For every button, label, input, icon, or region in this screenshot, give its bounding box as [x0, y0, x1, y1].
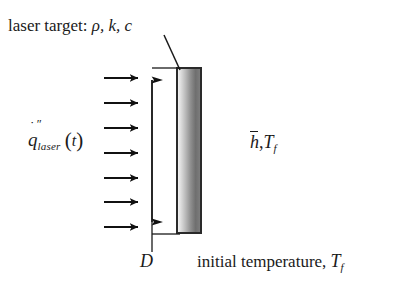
flux-paren-close: ) [76, 128, 83, 152]
laser-flux-label: ˙ ″ q laser (t) [28, 130, 83, 152]
diagram-title: laser target: ρ, k, c [8, 16, 132, 36]
flux-dot-accent: ˙ [30, 119, 34, 132]
initial-temperature-symbol: T [331, 251, 341, 271]
flux-paren-open: ( [65, 128, 72, 152]
laser-target-diagram: laser target: ρ, k, c ˙ ″ q laser (t) h,… [0, 0, 405, 297]
flux-double-prime: ″ [36, 118, 41, 130]
initial-temperature-text: initial temperature, [197, 252, 326, 271]
convection-coefficient-symbol: h [250, 133, 259, 151]
target-slab [176, 67, 202, 234]
initial-temperature-subscript: f [341, 261, 344, 273]
laser-flux-arrows [104, 78, 138, 227]
diagram-title-prefix: laser target: [8, 16, 87, 35]
initial-temperature-label: initial temperature, Tf [197, 252, 344, 273]
diagram-title-symbols: ρ, k, c [92, 16, 132, 35]
laser-flux-symbol-group: ˙ ″ q [28, 130, 38, 149]
title-leader-line [164, 35, 180, 70]
flux-subscript: laser [38, 140, 61, 152]
fluid-temperature-symbol: T [264, 132, 274, 152]
fluid-temperature-subscript: f [274, 142, 277, 154]
thickness-label: D [140, 252, 153, 270]
convection-label: h,Tf [250, 133, 277, 154]
